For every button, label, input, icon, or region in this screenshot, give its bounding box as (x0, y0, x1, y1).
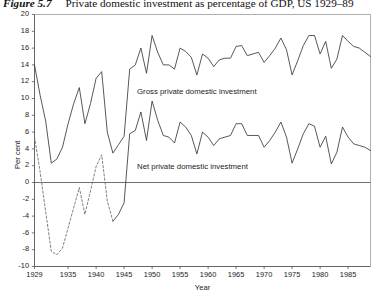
series-annotation-gross: Gross private domestic investment (137, 87, 257, 96)
y-tick-label: 20 (4, 10, 29, 18)
y-tick-label: -2 (4, 195, 29, 203)
y-tick-label: -6 (4, 229, 29, 237)
y-tick-label: -10 (4, 262, 29, 270)
y-tick-label: 14 (4, 61, 29, 69)
y-axis-label: Per cent (13, 141, 22, 169)
x-tick-label: 1929 (19, 271, 51, 279)
y-tick-label: 16 (4, 44, 29, 52)
y-tick-label: 0 (4, 178, 29, 186)
y-tick-label: -8 (4, 245, 29, 253)
figure-container: Figure 5.7Private domestic investment as… (0, 0, 383, 300)
series-line-gross (35, 36, 371, 164)
series-line-net-dashed (35, 137, 113, 255)
y-tick-label: -4 (4, 212, 29, 220)
y-tick-label: 8 (4, 111, 29, 119)
y-tick-label: 10 (4, 94, 29, 102)
x-axis-label: Year (173, 283, 233, 292)
chart-svg (0, 0, 383, 300)
axes-group (35, 15, 371, 267)
y-tick-label: 18 (4, 27, 29, 35)
plot-area: -10-8-6-4-202468101214161820 19291935194… (0, 0, 383, 300)
y-tick-label: 6 (4, 128, 29, 136)
y-tick-label: 12 (4, 77, 29, 85)
series-annotation-net: Net private domestic investment (137, 162, 248, 171)
x-tick-label: 1985 (332, 271, 364, 279)
